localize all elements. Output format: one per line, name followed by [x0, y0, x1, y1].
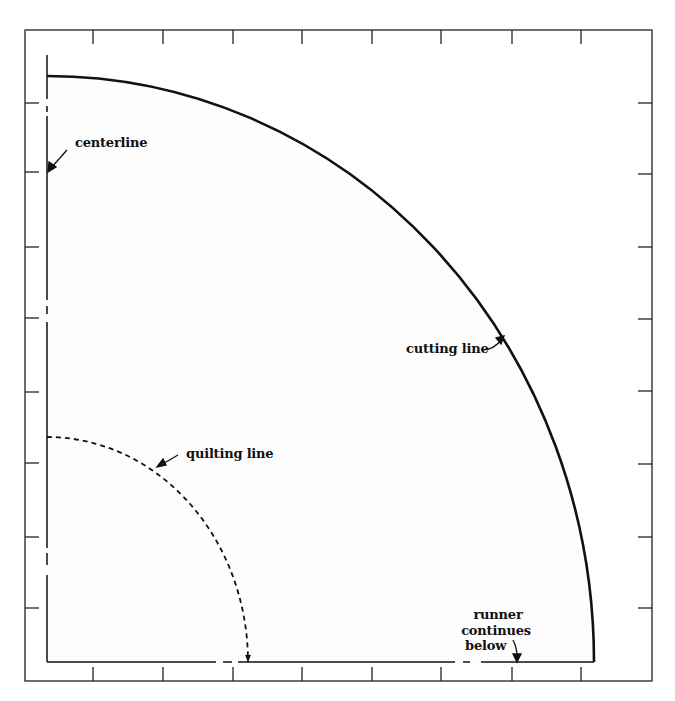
pattern-svg	[0, 0, 675, 701]
runner-label-line3: below	[465, 638, 506, 654]
runner-label-line2: continues	[458, 623, 534, 639]
runner-label-line1: runner	[462, 607, 534, 623]
pattern-diagram: centerline cutting line quilting line ru…	[0, 0, 675, 701]
pattern-fill	[47, 76, 594, 662]
cutting-line-label: cutting line	[406, 341, 489, 357]
quilting-line-label: quilting line	[186, 446, 273, 462]
centerline-label: centerline	[75, 135, 147, 151]
